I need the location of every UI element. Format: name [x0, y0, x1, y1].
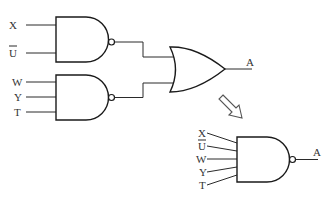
nand-body-5 — [237, 137, 290, 182]
label-r-t: T — [199, 179, 206, 191]
label-t: T — [14, 106, 21, 118]
label-u-bar: U — [9, 47, 17, 59]
label-output-a: A — [246, 56, 254, 68]
or-gate: A — [170, 47, 254, 92]
nand-gate-1: X U — [9, 17, 115, 62]
inversion-bubble-2 — [109, 95, 115, 101]
wire-g2-to-or — [115, 83, 176, 98]
wire-r-y — [207, 167, 237, 172]
label-r-x: X — [198, 127, 206, 139]
wire-r-u-bar — [207, 146, 237, 151]
label-r-u-bar: U — [198, 140, 206, 152]
wire-r-x — [207, 133, 237, 143]
label-y: Y — [14, 91, 22, 103]
nand-body-1 — [56, 17, 109, 62]
label-r-y: Y — [199, 166, 207, 178]
label-x: X — [9, 19, 17, 31]
or-body — [170, 47, 225, 92]
nand-gate-2: W Y T — [12, 75, 115, 120]
wire-g1-to-or — [115, 42, 176, 57]
inversion-bubble-1 — [109, 39, 115, 45]
wire-r-t — [207, 175, 237, 185]
logic-diagram: X U W Y T A X U W Y — [0, 0, 331, 206]
label-r-output-a: A — [313, 146, 321, 158]
transform-arrow-icon — [219, 95, 242, 118]
nand-body-2 — [56, 75, 109, 120]
label-r-w: W — [196, 153, 207, 165]
nand-gate-5-input: X U W Y T A — [196, 127, 321, 191]
inversion-bubble-5 — [290, 157, 296, 163]
label-w: W — [12, 76, 23, 88]
